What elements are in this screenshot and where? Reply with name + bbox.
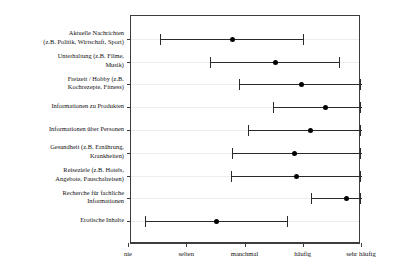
category-label-line: Angebote, Pauschalreisen) <box>0 175 124 183</box>
category-label-line: Krankheiten) <box>0 152 124 160</box>
range-cap-high <box>360 193 361 204</box>
category-tick <box>127 198 131 199</box>
category-label-line: Reiseziele (z.B. Hotels, <box>0 166 124 174</box>
range-cap-low <box>248 125 249 136</box>
range-cap-low <box>210 57 211 68</box>
category-tick <box>127 153 131 154</box>
range-cap-high <box>287 216 288 227</box>
range-line <box>248 130 362 131</box>
range-cap-low <box>231 171 232 182</box>
range-cap-high <box>360 125 361 136</box>
x-tick-label: nie <box>124 250 132 258</box>
range-cap-low <box>311 193 312 204</box>
category-label-line: Freizeit / Hobby (z.B. <box>0 75 124 83</box>
category-label-line: Informationen <box>0 197 124 205</box>
category-label-line: Musik) <box>0 61 124 69</box>
category-tick <box>127 130 131 131</box>
chart-figure: Aktuelle Nachrichten(z.B. Politik, Wirts… <box>0 0 393 275</box>
range-cap-low <box>239 79 240 90</box>
range-cap-low <box>273 102 274 113</box>
category-label: Informationen über Personen <box>0 125 124 133</box>
mean-marker <box>308 128 313 133</box>
category-label-line: Gesundheit (z.B. Ernährung, <box>0 143 124 151</box>
category-label: Unterhaltung (z.B. Filme,Musik) <box>0 52 124 69</box>
range-cap-high <box>360 79 361 90</box>
category-label: Gesundheit (z.B. Ernährung,Krankheiten) <box>0 143 124 160</box>
range-cap-low <box>160 34 161 45</box>
x-tick <box>303 243 304 247</box>
plot-area <box>130 15 360 243</box>
category-label: Reiseziele (z.B. Hotels,Angebote, Pausch… <box>0 166 124 183</box>
category-label-line: Unterhaltung (z.B. Filme, <box>0 52 124 60</box>
range-cap-low <box>232 148 233 159</box>
category-label-line: Kochrezepte, Fitness) <box>0 83 124 91</box>
category-tick <box>127 107 131 108</box>
category-label: Erotische Inhalte <box>0 216 124 224</box>
mean-marker <box>323 105 328 110</box>
range-line <box>273 107 362 108</box>
category-label-line: Informationen zu Produkten <box>0 102 124 110</box>
category-tick <box>127 39 131 40</box>
category-axis-labels: Aktuelle Nachrichten(z.B. Politik, Wirts… <box>0 0 124 275</box>
x-tick-label: sehr häufig <box>346 250 375 258</box>
x-tick <box>245 243 246 247</box>
range-line <box>311 198 362 199</box>
category-tick <box>127 176 131 177</box>
mean-marker <box>292 151 297 156</box>
range-cap-high <box>339 57 340 68</box>
mean-marker <box>273 60 278 65</box>
category-label: Recherche für fachlicheInformationen <box>0 189 124 206</box>
x-axis: nieseltenmanchmalhäufigsehr häufig <box>130 243 360 244</box>
x-tick <box>186 243 187 247</box>
category-label: Informationen zu Produkten <box>0 102 124 110</box>
category-label-line: Informationen über Personen <box>0 125 124 133</box>
range-cap-high <box>360 171 361 182</box>
x-tick <box>361 243 362 247</box>
category-tick <box>127 84 131 85</box>
category-label: Freizeit / Hobby (z.B.Kochrezepte, Fitne… <box>0 75 124 92</box>
mean-marker <box>344 196 349 201</box>
mean-marker <box>230 37 235 42</box>
range-cap-high <box>303 34 304 45</box>
range-cap-high <box>360 148 361 159</box>
category-tick <box>127 221 131 222</box>
range-cap-high <box>360 102 361 113</box>
mean-marker <box>294 174 299 179</box>
category-label-line: Recherche für fachliche <box>0 189 124 197</box>
category-tick <box>127 62 131 63</box>
x-tick-label: häufig <box>294 250 311 258</box>
category-label: Aktuelle Nachrichten(z.B. Politik, Wirts… <box>0 29 124 46</box>
range-cap-low <box>145 216 146 227</box>
category-label-line: Aktuelle Nachrichten <box>0 29 124 37</box>
mean-marker <box>214 219 219 224</box>
x-tick-label: manchmal <box>231 250 258 258</box>
x-tick-label: selten <box>179 250 194 258</box>
category-label-line: (z.B. Politik, Wirtschaft, Sport) <box>0 38 124 46</box>
x-tick <box>128 243 129 247</box>
category-label-line: Erotische Inhalte <box>0 216 124 224</box>
mean-marker <box>299 82 304 87</box>
